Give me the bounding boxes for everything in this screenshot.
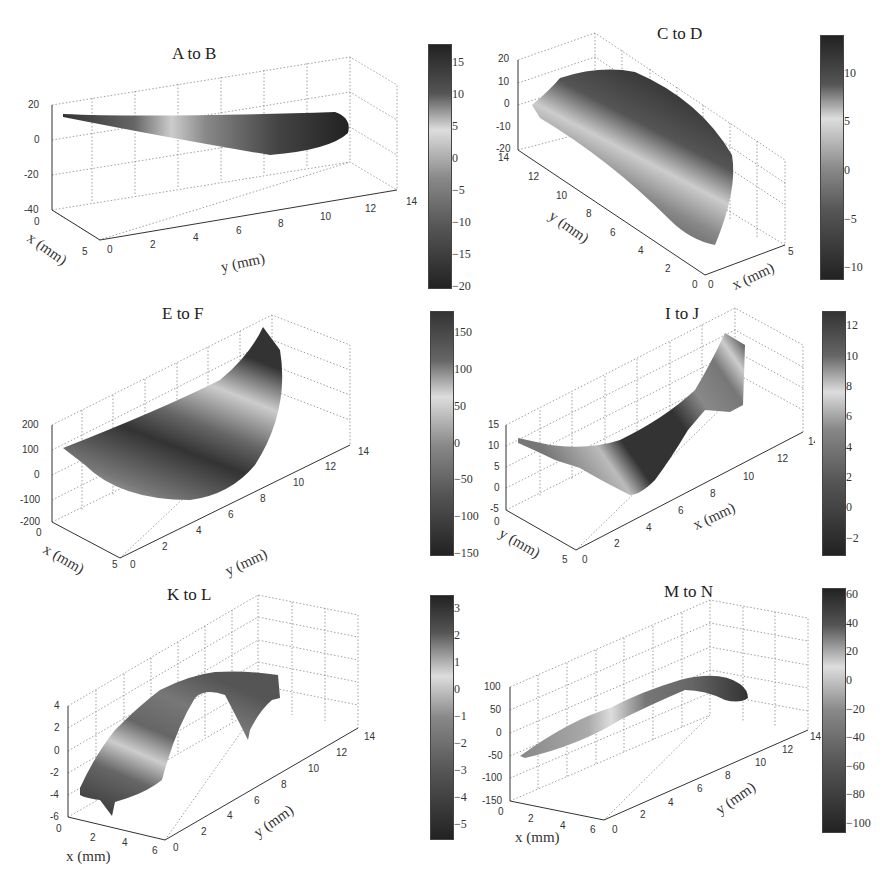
svg-text:5: 5 (82, 246, 88, 257)
colorbar-tick: −15 (452, 247, 471, 262)
svg-text:0: 0 (36, 527, 42, 538)
panel-c-to-d: C to D 20100 -10-2014 (460, 0, 895, 295)
colorbar-tick: 10 (846, 349, 858, 364)
colorbar-tick: −20 (846, 702, 865, 717)
svg-text:-20: -20 (24, 169, 39, 180)
colorbar-tick: 0 (454, 682, 460, 697)
svg-text:0: 0 (56, 823, 62, 834)
svg-text:6: 6 (610, 227, 616, 238)
svg-text:6: 6 (697, 783, 703, 794)
svg-text:2: 2 (528, 813, 534, 824)
colorbar (822, 311, 846, 556)
svg-text:14: 14 (810, 731, 822, 742)
svg-text:12: 12 (325, 461, 337, 472)
svg-text:2: 2 (54, 722, 60, 733)
colorbar (430, 595, 454, 840)
svg-text:8: 8 (260, 493, 266, 504)
svg-text:4: 4 (646, 522, 652, 533)
svg-text:4: 4 (193, 232, 199, 243)
panel-a-to-b: A to B 200 -20-40 (0, 0, 460, 295)
svg-text:4: 4 (560, 820, 566, 831)
svg-text:4: 4 (122, 837, 128, 848)
svg-text:-150: -150 (482, 795, 502, 806)
svg-text:0: 0 (582, 554, 588, 565)
x-axis-label: x (mm) (730, 259, 778, 293)
svg-text:0: 0 (494, 516, 500, 527)
svg-text:0: 0 (54, 745, 60, 756)
colorbar-tick: 0 (454, 436, 460, 451)
colorbar-tick: 0 (846, 500, 852, 515)
surface-plot-k-to-l: 420 -2-4-6 0246 024 6810 1214 x (mm) y (… (0, 580, 420, 872)
svg-text:20: 20 (498, 53, 510, 64)
colorbar-tick: 50 (454, 399, 466, 414)
svg-text:8: 8 (586, 208, 592, 219)
svg-text:14: 14 (358, 446, 370, 457)
svg-text:15: 15 (488, 419, 500, 430)
svg-text:10: 10 (293, 477, 305, 488)
svg-text:4: 4 (638, 245, 644, 256)
y-axis-label: y (mm) (219, 250, 266, 276)
colorbar-tick: −5 (844, 212, 857, 227)
svg-text:-4: -4 (50, 789, 59, 800)
svg-text:50: 50 (490, 704, 502, 715)
colorbar-tick: −5 (452, 183, 465, 198)
svg-text:10: 10 (498, 76, 510, 87)
svg-text:8: 8 (725, 770, 731, 781)
svg-text:6: 6 (152, 845, 158, 856)
svg-text:10: 10 (755, 757, 767, 768)
svg-text:0: 0 (34, 469, 40, 480)
svg-text:4: 4 (227, 810, 233, 821)
x-axis-label: x (mm) (691, 499, 739, 533)
svg-text:2: 2 (640, 809, 646, 820)
colorbar-tick: 1 (454, 655, 460, 670)
svg-text:5: 5 (494, 461, 500, 472)
svg-text:-50: -50 (488, 750, 503, 761)
colorbar-tick: 0 (846, 673, 852, 688)
colorbar (428, 44, 452, 289)
svg-text:6: 6 (590, 824, 596, 835)
svg-text:0: 0 (34, 134, 40, 145)
colorbar-tick: 3 (454, 601, 460, 616)
colorbar-tick: −20 (452, 279, 471, 294)
svg-text:12: 12 (336, 747, 348, 758)
svg-text:2: 2 (162, 541, 168, 552)
colorbar (820, 35, 844, 280)
colorbar-tick: 8 (846, 379, 852, 394)
colorbar-tick: −50 (454, 472, 473, 487)
svg-text:20: 20 (28, 99, 40, 110)
svg-text:10: 10 (743, 471, 755, 482)
svg-text:0: 0 (34, 216, 40, 227)
svg-text:0: 0 (173, 842, 179, 853)
colorbar-tick: 2 (846, 470, 852, 485)
colorbar (822, 588, 846, 833)
y-axis-label: y (mm) (251, 802, 297, 841)
svg-text:0: 0 (504, 98, 510, 109)
colorbar-tick: −1 (454, 709, 467, 724)
colorbar-tick: −10 (452, 215, 471, 230)
svg-text:12: 12 (782, 744, 794, 755)
svg-text:-2: -2 (50, 767, 59, 778)
svg-text:10: 10 (556, 190, 568, 201)
colorbar-tick: 150 (454, 325, 472, 340)
svg-text:-100: -100 (482, 772, 502, 783)
svg-text:2: 2 (201, 826, 207, 837)
colorbar-tick: −3 (454, 763, 467, 778)
colorbar-tick: 10 (452, 87, 464, 102)
x-axis-label: x (mm) (24, 229, 70, 268)
colorbar-tick: −100 (846, 816, 871, 831)
svg-text:0: 0 (130, 559, 136, 570)
svg-text:0: 0 (496, 727, 502, 738)
svg-text:6: 6 (236, 225, 242, 236)
colorbar-tick: −2 (454, 736, 467, 751)
colorbar-tick: 4 (846, 440, 852, 455)
y-axis-label: y (mm) (223, 545, 271, 579)
svg-text:5: 5 (788, 246, 794, 257)
svg-text:200: 200 (22, 419, 39, 430)
svg-text:6: 6 (678, 505, 684, 516)
colorbar-tick: 5 (844, 114, 850, 129)
svg-text:2: 2 (150, 239, 156, 250)
svg-text:-5: -5 (490, 503, 499, 514)
svg-text:4: 4 (196, 525, 202, 536)
svg-text:100: 100 (484, 681, 501, 692)
panel-e-to-f: E to F 2001000 -100- (0, 300, 470, 585)
